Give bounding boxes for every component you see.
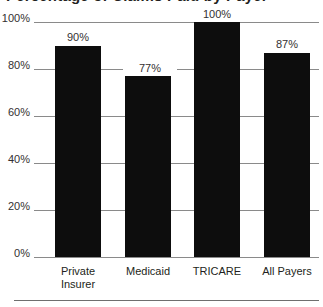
y-tick-label-60: 60% (0, 106, 30, 118)
x-tick-label-all-payers: All Payers (253, 265, 321, 278)
y-tick-label-100: 100% (0, 12, 30, 24)
x-tick-label-medicaid: Medicaid (114, 265, 182, 278)
bar-all-payers[interactable] (264, 53, 310, 257)
value-label-private-insurer: 90% (55, 31, 101, 43)
bar-private-insurer[interactable] (55, 46, 101, 257)
bar-chart: 100% 80% 60% 40% 20% 0% 90% 77% 100% 87%… (0, 0, 323, 307)
bottom-divider (14, 300, 319, 301)
x-tick-label-tricare: TRICARE (185, 265, 249, 278)
y-tick-label-40: 40% (0, 153, 30, 165)
bar-medicaid[interactable] (125, 76, 171, 257)
y-tick-label-0: 0% (0, 247, 30, 259)
value-label-tricare: 100% (194, 8, 240, 20)
bar-tricare[interactable] (194, 22, 240, 257)
x-tick-label-private-insurer: Private Insurer (46, 265, 110, 291)
value-label-medicaid: 77% (123, 62, 177, 74)
y-tick-label-20: 20% (0, 200, 30, 212)
gridline-100 (34, 22, 319, 23)
y-tick-label-80: 80% (0, 59, 30, 71)
value-label-all-payers: 87% (264, 38, 310, 50)
axis-baseline-0 (34, 257, 319, 258)
